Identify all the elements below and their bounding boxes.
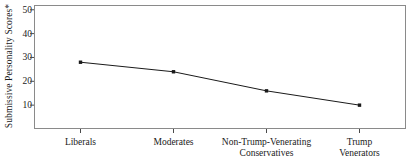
x-axis-tick-label: Non-Trump-Venerating Conservatives: [222, 137, 311, 159]
y-axis-tick-label: 30: [10, 52, 32, 62]
x-axis-tick-labels: LiberalsModeratesNon-Trump-Venerating Co…: [0, 133, 411, 166]
y-axis-tick-label: 20: [10, 76, 32, 86]
x-axis-tick-label: Moderates: [153, 137, 193, 148]
data-point-marker: [172, 70, 175, 73]
x-axis-tick-label: Liberals: [65, 137, 96, 148]
data-line: [81, 62, 360, 105]
y-axis-tick-label: 50: [10, 5, 32, 15]
data-point-marker: [265, 89, 268, 92]
y-axis-tick-label: 10: [10, 100, 32, 110]
data-point-marker: [79, 61, 82, 64]
x-axis-tick-label: Trump Venerators: [339, 137, 380, 159]
plot-area: [34, 5, 406, 129]
data-markers: [79, 61, 361, 107]
data-point-marker: [358, 103, 361, 106]
y-axis-tick-label: 40: [10, 29, 32, 39]
chart-figure: Submissive Personality Scores* 102030405…: [0, 0, 411, 166]
